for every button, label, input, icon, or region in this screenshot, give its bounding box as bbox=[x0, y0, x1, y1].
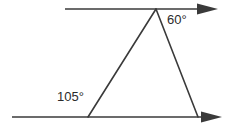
geometry-diagram: 60° 105° bbox=[0, 0, 242, 129]
diagram-canvas: 60° 105° bbox=[0, 0, 242, 129]
base-left-angle-label: 105° bbox=[57, 89, 84, 104]
apex-angle-label: 60° bbox=[167, 12, 187, 27]
